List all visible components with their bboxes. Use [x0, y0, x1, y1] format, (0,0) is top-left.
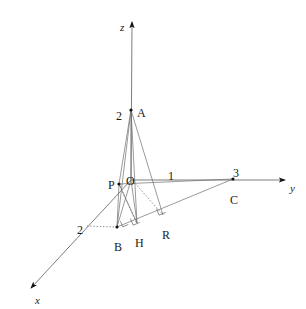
dotted-x-tick-to-B — [87, 226, 115, 227]
point-label-P: P — [108, 179, 115, 191]
axis-label-y: y — [290, 183, 295, 194]
tick-label-tick-3: 3 — [233, 167, 239, 179]
segment-A-B — [117, 110, 131, 227]
axis-label-z: z — [120, 22, 124, 33]
tick-label-tick-1: 1 — [168, 170, 174, 182]
dotted-segments-layer — [87, 181, 163, 227]
point-dots-layer — [115, 108, 234, 228]
point-label-C: C — [230, 194, 238, 206]
point-label-A: A — [137, 107, 146, 119]
point-dot-P — [117, 182, 120, 185]
solid-segments-layer — [117, 110, 233, 227]
point-label-H: H — [135, 237, 144, 249]
point-label-R: R — [162, 229, 170, 241]
axis-label-x: x — [35, 295, 40, 306]
point-dot-A — [129, 108, 132, 111]
tick-label-tick-2: 2 — [77, 224, 83, 236]
figure-canvas: zyxAOPBHRC2132 — [0, 0, 306, 309]
dotted-O-to-R — [133, 181, 163, 215]
axes-layer — [31, 22, 285, 288]
point-label-O: O — [126, 175, 135, 187]
point-label-B: B — [114, 241, 122, 253]
geometry-svg — [0, 0, 306, 309]
point-dot-B — [115, 225, 118, 228]
axis-z — [131, 22, 132, 180]
tick-label-tick-2: 2 — [116, 110, 122, 122]
